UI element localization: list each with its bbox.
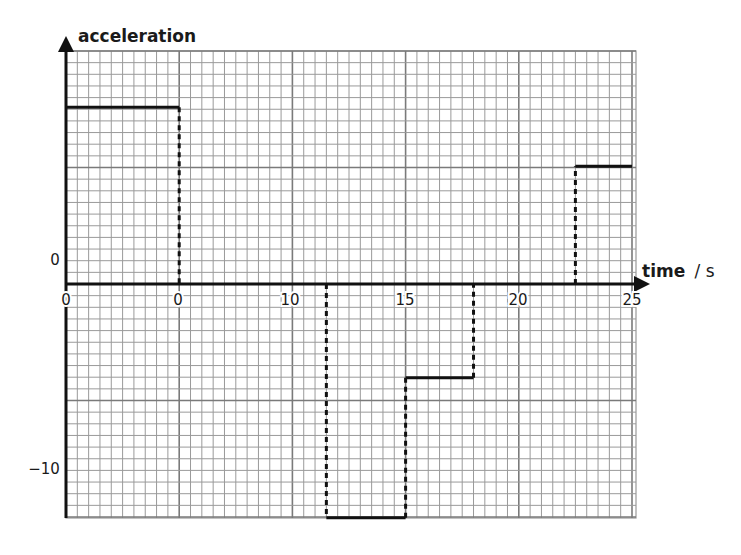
y-tick-label: 0 — [50, 251, 60, 269]
y-axis-title: acceleration — [78, 26, 196, 46]
x-axis-title: time / s — [642, 261, 715, 281]
x-tick-label: 0 — [61, 291, 71, 309]
y-tick-label: −10 — [28, 460, 60, 478]
x-axis-title-main: time — [642, 261, 685, 281]
x-tick-label: 20 — [508, 291, 527, 309]
x-tick-label: 25 — [622, 291, 641, 309]
acceleration-time-chart: acceleration time / s 0010152025 0 −10 — [0, 0, 741, 555]
x-tick-label: 0 — [173, 291, 183, 309]
y-axis-arrow-icon — [58, 36, 74, 52]
x-axis-title-unit: / s — [695, 261, 715, 281]
x-tick-label: 15 — [395, 291, 414, 309]
y-tick-labels: 0 −10 — [28, 251, 60, 478]
x-tick-label: 10 — [280, 291, 299, 309]
